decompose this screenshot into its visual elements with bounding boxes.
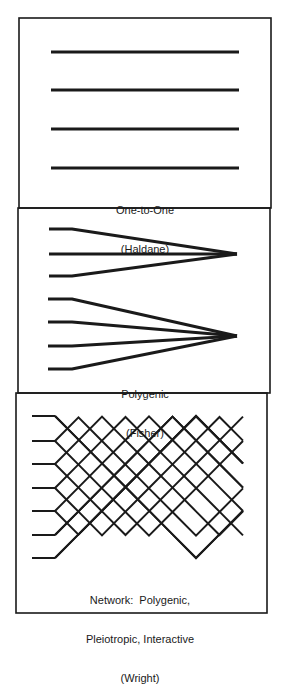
label-network-line1: Network: Polygenic, bbox=[55, 594, 225, 607]
label-polygenic-line2: (Fisher) bbox=[95, 427, 195, 440]
one-to-one-lines bbox=[51, 52, 239, 168]
label-polygenic-line1: Polygenic bbox=[95, 388, 195, 401]
label-network-line2: Pleiotropic, Interactive bbox=[55, 633, 225, 646]
label-network: Network: Polygenic, Pleiotropic, Interac… bbox=[55, 568, 225, 688]
label-network-line3: (Wright) bbox=[55, 672, 225, 685]
label-polygenic: Polygenic (Fisher) bbox=[95, 362, 195, 453]
label-one-to-one: One-to-One (Haldane) bbox=[95, 178, 195, 269]
polygenic-fan-2 bbox=[48, 299, 237, 369]
label-one-to-one-line2: (Haldane) bbox=[95, 243, 195, 256]
label-one-to-one-line1: One-to-One bbox=[95, 204, 195, 217]
